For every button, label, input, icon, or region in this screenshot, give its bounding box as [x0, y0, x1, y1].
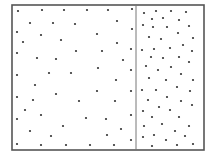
particle: [62, 125, 64, 127]
particle: [185, 11, 187, 13]
particle: [17, 10, 19, 12]
particle: [16, 74, 18, 76]
particle: [29, 130, 31, 132]
particle: [22, 41, 24, 43]
particle: [97, 67, 99, 69]
particle: [153, 48, 155, 50]
particle: [85, 117, 87, 119]
particle: [70, 72, 72, 74]
particle: [115, 79, 117, 81]
particle: [130, 139, 132, 141]
particle: [141, 89, 143, 91]
particle: [162, 17, 164, 19]
particle: [155, 10, 157, 12]
particle: [178, 116, 180, 118]
particle: [101, 50, 103, 52]
particle: [182, 44, 184, 46]
particle: [86, 9, 88, 11]
particle: [55, 93, 57, 95]
particle: [96, 90, 98, 92]
particle: [130, 48, 132, 50]
particle: [166, 26, 168, 28]
particle: [131, 8, 133, 10]
particle: [188, 125, 190, 127]
particle: [150, 56, 152, 58]
particle: [142, 24, 144, 26]
particle: [24, 109, 26, 111]
particle: [192, 37, 194, 39]
particle: [60, 39, 62, 41]
particle: [152, 26, 154, 28]
particle: [142, 136, 144, 138]
particle: [188, 61, 190, 63]
particle: [148, 77, 150, 79]
particle: [162, 57, 164, 59]
particle: [48, 72, 50, 74]
particle: [130, 90, 132, 92]
particle: [141, 49, 143, 51]
particle: [78, 100, 80, 102]
particle: [116, 20, 118, 22]
particle: [36, 57, 38, 59]
particle: [158, 106, 160, 108]
particle: [130, 69, 132, 71]
particle: [170, 10, 172, 12]
particle: [32, 99, 34, 101]
particle: [41, 9, 43, 11]
particle: [169, 47, 171, 49]
particle: [122, 59, 124, 61]
particle: [131, 28, 133, 30]
particle: [130, 114, 132, 116]
particle: [143, 125, 145, 127]
particle: [52, 22, 54, 24]
particle: [151, 145, 153, 147]
particle: [161, 123, 163, 125]
particle: [180, 73, 182, 75]
particle-diagram: [0, 0, 213, 157]
particle: [148, 36, 150, 38]
particle: [114, 100, 116, 102]
particle: [143, 12, 145, 14]
particle: [176, 144, 178, 146]
particle: [107, 9, 109, 11]
particle: [166, 96, 168, 98]
particle: [192, 143, 194, 145]
particle: [16, 118, 18, 120]
particle: [55, 58, 57, 60]
particle: [191, 50, 193, 52]
particle: [105, 118, 107, 120]
particle: [16, 31, 18, 33]
particle: [178, 19, 180, 21]
particle: [89, 144, 91, 146]
particle: [74, 23, 76, 25]
particle: [160, 38, 162, 40]
particle: [174, 130, 176, 132]
particle: [184, 135, 186, 137]
particle: [65, 144, 67, 146]
particle: [113, 144, 115, 146]
particle: [169, 109, 171, 111]
particle: [151, 116, 153, 118]
particle: [155, 89, 157, 91]
particle: [192, 79, 194, 81]
left-chamber: [16, 8, 133, 146]
right-chamber: [141, 10, 194, 147]
particle: [145, 65, 147, 67]
particle: [157, 69, 159, 71]
particle: [191, 104, 193, 106]
particle: [142, 110, 144, 112]
particle: [75, 50, 77, 52]
particle: [153, 134, 155, 136]
particle: [16, 52, 18, 54]
particle: [29, 22, 31, 24]
particle: [50, 135, 52, 137]
particle: [16, 143, 18, 145]
particle: [151, 18, 153, 20]
particle: [177, 32, 179, 34]
particle: [116, 42, 118, 44]
particle: [63, 9, 65, 11]
particle: [178, 56, 180, 58]
particle: [170, 66, 172, 68]
particle: [176, 86, 178, 88]
particle: [40, 114, 42, 116]
